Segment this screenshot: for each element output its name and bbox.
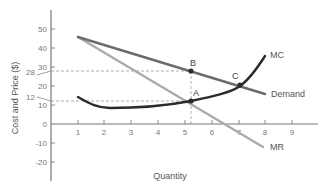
y-tick-10: 10: [38, 101, 47, 110]
y-annotation-28: 28: [26, 68, 35, 77]
x-tick-5: 5: [183, 128, 188, 137]
y-tick-40: 40: [38, 44, 47, 53]
x-tick-3: 3: [129, 128, 134, 137]
point-c: [237, 82, 242, 87]
y-tick-neg20: -20: [35, 158, 47, 167]
y-tick-50: 50: [38, 25, 47, 34]
mc-curve: [78, 56, 265, 108]
label-a: A: [193, 88, 199, 98]
label-c: C: [232, 71, 239, 81]
x-tick-2: 2: [102, 128, 107, 137]
y-tick-0: 0: [43, 120, 48, 129]
y-tick-30: 30: [38, 63, 47, 72]
y-axis-title: Cost and Price ($): [10, 62, 20, 135]
y-tick-labels: 50 40 30 20 10 0 -10 -20: [35, 25, 47, 167]
demand-curve: [78, 37, 265, 94]
label-b: B: [190, 58, 196, 68]
leader-28: [37, 71, 51, 75]
label-mc: MC: [270, 50, 284, 60]
reference-lines: [51, 71, 191, 124]
x-tick-labels: 1 2 3 4 5 6 7 8 9: [76, 128, 295, 137]
x-axis-title: Quantity: [153, 171, 187, 181]
x-tick-8: 8: [263, 128, 268, 137]
point-b: [188, 68, 193, 73]
point-a: [188, 98, 193, 103]
y-annotation-12: 12: [26, 93, 35, 102]
monopoly-chart: 50 40 30 20 10 0 -10 -20 28 12 1 2 3 4 5…: [0, 0, 329, 192]
label-mr: MR: [270, 142, 284, 152]
x-tick-9: 9: [290, 128, 295, 137]
x-tick-1: 1: [76, 128, 81, 137]
label-demand: Demand: [271, 89, 305, 99]
x-tick-4: 4: [156, 128, 161, 137]
y-tick-neg10: -10: [35, 139, 47, 148]
x-tick-6: 6: [210, 128, 215, 137]
y-tick-20: 20: [38, 82, 47, 91]
